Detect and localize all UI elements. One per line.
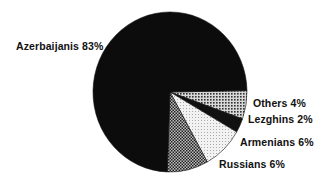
label-armenians: Armenians 6%	[240, 136, 314, 148]
label-azerbaijanis: Azerbaijanis 83%	[16, 40, 103, 52]
label-lezghins: Lezghins 2%	[248, 113, 313, 125]
label-russians: Russians 6%	[219, 158, 285, 170]
label-others: Others 4%	[253, 97, 306, 109]
pie-slices	[93, 12, 247, 172]
